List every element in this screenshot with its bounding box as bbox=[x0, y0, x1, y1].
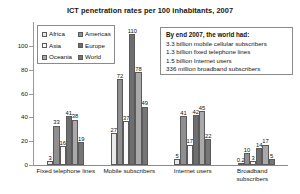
bar-world-fixed-telephone-lines: 19 bbox=[78, 142, 84, 165]
bar-value-label: 5 bbox=[270, 154, 273, 160]
callout-lines: 3.3 billion mobile cellular subscribers1… bbox=[166, 40, 288, 74]
y-axis-tick-label: 0 bbox=[4, 162, 28, 168]
bar-value-label: 3 bbox=[49, 156, 52, 162]
legend-item-label: World bbox=[85, 54, 101, 60]
legend-item-label: Asia bbox=[49, 43, 61, 49]
bar-value-label: 19 bbox=[78, 137, 84, 143]
y-axis-tick-label: 40 bbox=[4, 114, 28, 120]
bar-value-label: 49 bbox=[142, 101, 148, 107]
x-axis-label: Fixed telephone lines bbox=[34, 167, 98, 175]
legend-swatch-icon bbox=[42, 43, 47, 48]
legend-swatch-icon bbox=[42, 55, 47, 60]
x-axis-label: Broadband subscribers bbox=[225, 167, 281, 182]
callout-line: 1.3 billion fixed telephone lines bbox=[166, 48, 288, 57]
legend-item-africa[interactable]: Africa bbox=[42, 29, 72, 41]
y-axis-tick-label: 60 bbox=[4, 91, 28, 97]
y-axis-tick-label: 20 bbox=[4, 138, 28, 144]
bar-world-broadband-subscribers: 5 bbox=[269, 159, 275, 165]
legend-item-world[interactable]: World bbox=[78, 52, 111, 64]
legend-swatch-icon bbox=[78, 43, 83, 48]
legend-column-right: AmericasEuropeWorld bbox=[78, 29, 111, 64]
legend-item-americas[interactable]: Americas bbox=[78, 29, 111, 41]
legend-item-label: Europe bbox=[85, 43, 105, 49]
summary-callout: By end 2007, the world had: 3.3 billion … bbox=[160, 27, 293, 75]
callout-line: 1.5 billion Internet users bbox=[166, 57, 288, 66]
x-axis-line bbox=[33, 165, 288, 166]
bar-value-label: 110 bbox=[128, 29, 137, 35]
y-axis-tick-label: 100 bbox=[4, 43, 28, 49]
x-axis-label: Mobile subscribers bbox=[98, 167, 162, 175]
legend-item-europe[interactable]: Europe bbox=[78, 40, 111, 52]
bar-value-label: 22 bbox=[205, 134, 211, 140]
ict-penetration-chart: ICT penetration rates per 100 inhabitant… bbox=[0, 0, 300, 194]
legend-item-asia[interactable]: Asia bbox=[42, 40, 72, 52]
y-axis-tick-label: 80 bbox=[4, 67, 28, 73]
legend-item-label: Africa bbox=[49, 31, 65, 37]
bar-value-label: 3 bbox=[252, 156, 255, 162]
bar-value-label: 38 bbox=[72, 114, 78, 120]
legend-swatch-icon bbox=[78, 55, 83, 60]
bar-value-label: 10 bbox=[244, 148, 250, 154]
legend-item-label: Oceania bbox=[49, 54, 72, 60]
bar-value-label: 41 bbox=[180, 111, 186, 117]
bar-value-label: 72 bbox=[117, 74, 123, 80]
bar-value-label: 45 bbox=[199, 106, 205, 112]
x-axis-label: Internet users bbox=[161, 167, 225, 175]
y-axis-tick bbox=[29, 165, 34, 166]
bar-world-mobile-subscribers: 49 bbox=[142, 107, 148, 165]
bar-value-label: 5 bbox=[176, 154, 179, 160]
chart-title: ICT penetration rates per 100 inhabitant… bbox=[0, 6, 300, 15]
bar-world-internet-users: 22 bbox=[205, 139, 211, 165]
bar-value-label: 33 bbox=[53, 120, 59, 126]
callout-line: 3.3 billion mobile cellular subscribers bbox=[166, 40, 288, 49]
bar-value-label: 17 bbox=[262, 139, 268, 145]
legend-swatch-icon bbox=[78, 32, 83, 37]
legend-swatch-icon bbox=[42, 32, 47, 37]
chart-legend: AfricaAsiaOceania AmericasEuropeWorld bbox=[37, 25, 115, 64]
legend-item-label: Americas bbox=[85, 31, 111, 37]
x-axis-labels: Fixed telephone linesMobile subscribersI… bbox=[34, 167, 288, 193]
legend-column-left: AfricaAsiaOceania bbox=[42, 29, 72, 64]
callout-line: 336 million broadband subscribers bbox=[166, 65, 288, 74]
bar-value-label: 78 bbox=[135, 67, 141, 73]
legend-item-oceania[interactable]: Oceania bbox=[42, 52, 72, 64]
callout-heading: By end 2007, the world had: bbox=[166, 31, 288, 40]
